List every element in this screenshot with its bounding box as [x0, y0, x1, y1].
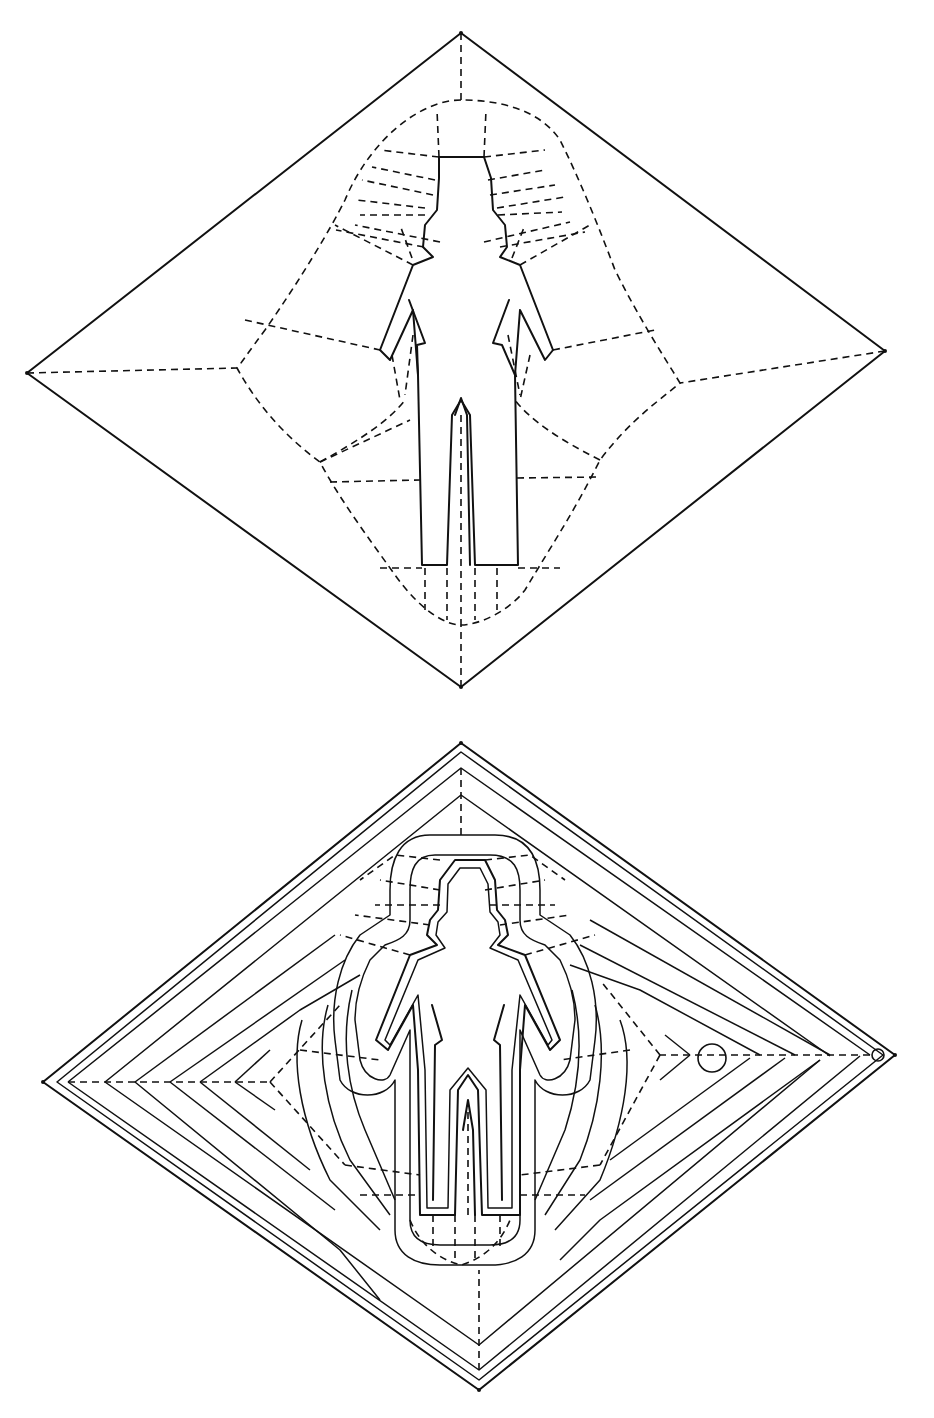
marker-circle-large — [698, 1044, 726, 1072]
lower-contours-right — [535, 920, 830, 1260]
upper-figure — [27, 33, 885, 687]
upper-corner-folds — [27, 33, 885, 687]
lower-envelope-2 — [334, 835, 597, 1265]
upper-figure-outline — [380, 157, 553, 565]
upper-diamond-outline — [27, 33, 885, 687]
upper-radial-folds — [335, 110, 590, 265]
lower-figure — [41, 741, 897, 1392]
diagram-canvas — [0, 0, 934, 1418]
lower-nested-diamonds — [43, 743, 895, 1390]
upper-envelope — [237, 100, 680, 625]
lower-contours-left — [135, 935, 395, 1300]
